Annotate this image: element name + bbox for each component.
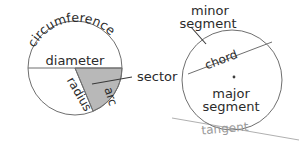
- label-tangent: tangent: [201, 120, 249, 138]
- label-chord: chord: [203, 47, 240, 72]
- label-minor-segment-line2: segment: [179, 16, 236, 31]
- circle-geometry-diagram: circumference diameter radius arc sector: [0, 0, 301, 153]
- right-circle-outline: [182, 30, 282, 130]
- left-circle-group: circumference diameter radius arc sector: [24, 10, 178, 115]
- center-point-dot: [233, 76, 236, 79]
- label-major-segment-line2: segment: [202, 99, 259, 114]
- label-sector: sector: [137, 69, 178, 84]
- right-circle-group: minor segment chord major segment tangen…: [172, 3, 299, 140]
- diagram-canvas: circumference diameter radius arc sector: [0, 0, 301, 153]
- label-diameter: diameter: [46, 53, 106, 68]
- label-circumference: circumference: [24, 10, 118, 50]
